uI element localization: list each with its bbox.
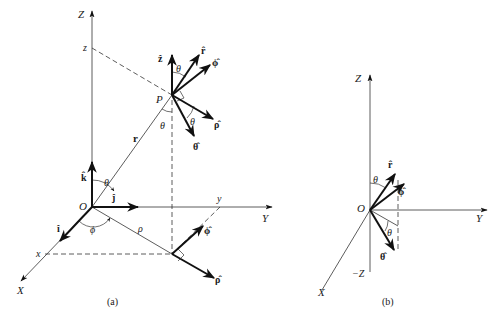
theta-label-P-right: θ [190,116,195,127]
rho-hat-vector-proj [172,254,214,278]
point-P-label: P [155,93,163,105]
x-coord-mark: x [35,248,41,259]
x-axis-label: X [16,284,25,296]
b-neg-z-label: −Z [352,268,365,279]
phi-label: ϕ [90,224,95,235]
position-vector-r [92,95,172,207]
caption-a: (a) [107,296,118,308]
theta-arc-origin [92,180,114,191]
y-axis-label: Y [262,212,270,224]
r-hat-vector [172,55,199,95]
theta-arc-P-lower [162,109,172,112]
rho-label: ρ [137,223,143,234]
i-hat-label: î [56,223,60,234]
y-coord-mark: y [216,193,222,204]
b-r-hat-label: r̂ [388,159,393,170]
r-label: r [133,132,138,144]
b-z-axis-label: Z [355,72,362,84]
z-hat-label: ẑ [158,53,163,64]
theta-label-P-upper: θ [176,63,181,74]
panel-b: Z −Z Y X O θ θ r̂ ϕ̂ θ̂ (b) [317,72,487,308]
theta-label-P-lower: θ [160,120,165,131]
panel-a: Z Y X z y x r ρ θ ϕ O k̂ ĵ [16,8,272,308]
b-y-axis-label: Y [476,212,484,224]
b-theta-hat-label: θ̂ [380,251,387,262]
theta-hat-label-P: θ̂ [193,141,200,152]
phi-hat-label-P: ϕ̂ [212,57,220,68]
j-hat-label: ĵ [111,192,116,203]
b-theta-label-upper: θ [373,174,378,185]
b-theta-label-lower: θ [387,227,392,238]
caption-b: (b) [382,296,394,308]
rho-hat-label-proj: ρ̂ [215,274,222,285]
i-hat-vector [60,207,92,241]
phi-hat-label-proj: ϕ̂ [204,225,212,236]
r-hat-label: r̂ [201,45,206,56]
rho-line [92,207,172,254]
z-axis-label: Z [78,8,85,20]
rho-hat-label-P: ρ̂ [214,119,221,130]
phi-hat-vector-proj [172,226,203,254]
origin-label: O [79,200,87,212]
b-phi-hat-label: ϕ̂ [398,186,406,197]
k-hat-label: k̂ [81,171,87,183]
spherical-coordinates-figure: Z Y X z y x r ρ θ ϕ O k̂ ĵ [0,0,499,328]
b-x-axis-label: X [317,286,326,298]
b-origin-label: O [357,202,365,214]
z-coord-mark: z [82,42,87,53]
theta-label-origin: θ [104,177,109,188]
